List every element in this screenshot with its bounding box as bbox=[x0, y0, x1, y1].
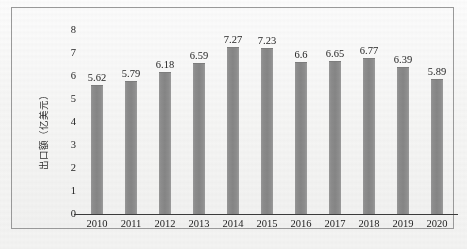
x-tick-label-2016: 2016 bbox=[284, 218, 318, 230]
bar-2016[interactable] bbox=[295, 62, 307, 215]
chart-frame: 出口额（亿美元） 8 7 6 5 4 3 2 1 0 5.625.796.186… bbox=[11, 7, 454, 229]
bar-2014[interactable] bbox=[227, 47, 239, 215]
x-tick-label-2015: 2015 bbox=[250, 218, 284, 230]
bar-value-label-2012: 6.18 bbox=[156, 59, 174, 70]
x-tick-label-2018: 2018 bbox=[352, 218, 386, 230]
bar-category-2019: 6.39 bbox=[386, 30, 420, 215]
bar-category-2017: 6.65 bbox=[318, 30, 352, 215]
y-tick-label-6: 6 bbox=[60, 71, 76, 81]
bar-category-2016: 6.6 bbox=[284, 30, 318, 215]
bar-category-2012: 6.18 bbox=[148, 30, 182, 215]
x-tick-label-2017: 2017 bbox=[318, 218, 352, 230]
bar-series: 5.625.796.186.597.277.236.66.656.776.395… bbox=[80, 30, 454, 215]
y-tick-label-2: 2 bbox=[60, 163, 76, 173]
bar-value-label-2010: 5.62 bbox=[88, 72, 106, 83]
bar-2018[interactable] bbox=[363, 58, 375, 215]
bar-value-label-2020: 5.89 bbox=[428, 66, 446, 77]
x-tick-label-2010: 2010 bbox=[80, 218, 114, 230]
bar-2010[interactable] bbox=[91, 85, 103, 215]
y-tick-label-8: 8 bbox=[60, 25, 76, 35]
bar-value-label-2016: 6.6 bbox=[294, 49, 307, 60]
bar-value-label-2018: 6.77 bbox=[360, 45, 378, 56]
bar-value-label-2017: 6.65 bbox=[326, 48, 344, 59]
x-tick-label-2020: 2020 bbox=[420, 218, 454, 230]
bar-2011[interactable] bbox=[125, 81, 137, 215]
y-tick-label-7: 7 bbox=[60, 48, 76, 58]
y-tick-label-4: 4 bbox=[60, 117, 76, 127]
figure-caption bbox=[112, 243, 362, 247]
bar-category-2020: 5.89 bbox=[420, 30, 454, 215]
x-axis-line bbox=[74, 214, 458, 215]
bar-category-2014: 7.27 bbox=[216, 30, 250, 215]
bar-value-label-2013: 6.59 bbox=[190, 50, 208, 61]
bar-category-2015: 7.23 bbox=[250, 30, 284, 215]
bar-category-2018: 6.77 bbox=[352, 30, 386, 215]
bar-category-2010: 5.62 bbox=[80, 30, 114, 215]
bar-2012[interactable] bbox=[159, 72, 171, 215]
bar-2019[interactable] bbox=[397, 67, 409, 215]
plot-area: 5.625.796.186.597.277.236.66.656.776.395… bbox=[80, 30, 454, 215]
y-tick-label-3: 3 bbox=[60, 140, 76, 150]
bar-2013[interactable] bbox=[193, 63, 205, 215]
bar-value-label-2015: 7.23 bbox=[258, 35, 276, 46]
x-tick-label-2012: 2012 bbox=[148, 218, 182, 230]
x-tick-label-2011: 2011 bbox=[114, 218, 148, 230]
bar-2017[interactable] bbox=[329, 61, 341, 215]
figure-page: 出口额（亿美元） 8 7 6 5 4 3 2 1 0 5.625.796.186… bbox=[0, 0, 467, 249]
bar-value-label-2019: 6.39 bbox=[394, 54, 412, 65]
bar-2015[interactable] bbox=[261, 48, 273, 215]
x-axis-labels: 2010201120122013201420152016201720182019… bbox=[80, 218, 454, 230]
bar-value-label-2014: 7.27 bbox=[224, 34, 242, 45]
y-tick-label-5: 5 bbox=[60, 94, 76, 104]
x-tick-label-2014: 2014 bbox=[216, 218, 250, 230]
y-tick-label-1: 1 bbox=[60, 186, 76, 196]
y-axis-title-text: 出口额（亿美元） bbox=[36, 70, 50, 190]
bar-category-2013: 6.59 bbox=[182, 30, 216, 215]
x-tick-label-2019: 2019 bbox=[386, 218, 420, 230]
bar-value-label-2011: 5.79 bbox=[122, 68, 140, 79]
bar-category-2011: 5.79 bbox=[114, 30, 148, 215]
y-axis-title: 出口额（亿美元） bbox=[36, 0, 50, 70]
bar-2020[interactable] bbox=[431, 79, 443, 215]
x-tick-label-2013: 2013 bbox=[182, 218, 216, 230]
